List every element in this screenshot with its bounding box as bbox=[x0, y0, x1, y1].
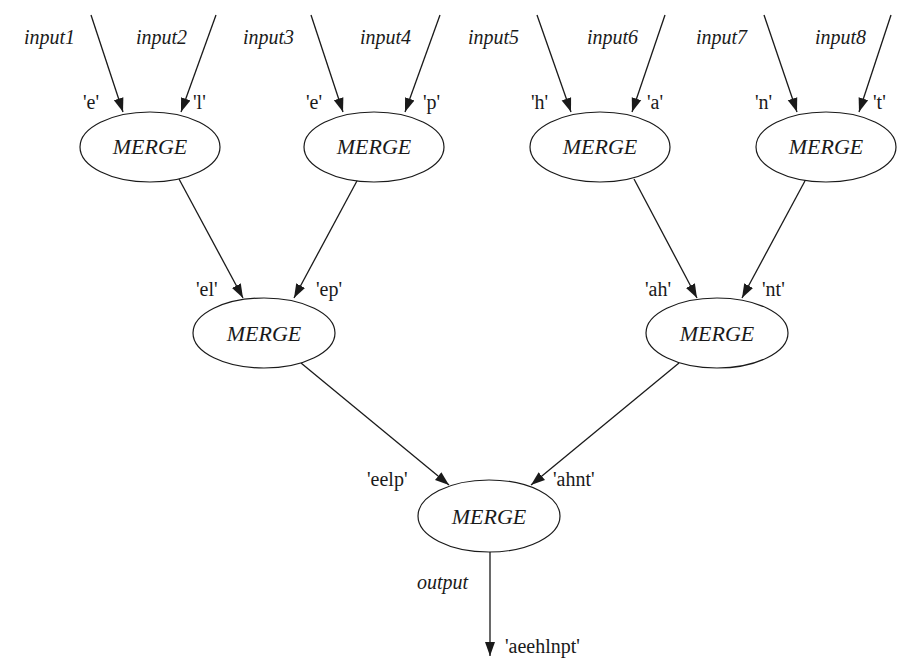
level1-output-3: 'ah' bbox=[645, 278, 671, 300]
input-value-1: 'e' bbox=[83, 91, 99, 113]
root-node: MERGE bbox=[418, 480, 560, 552]
input-value-5: 'h' bbox=[531, 91, 548, 113]
node-label: MERGE bbox=[562, 134, 638, 159]
level2-edges bbox=[301, 363, 679, 485]
level2-output-1: 'eelp' bbox=[367, 468, 408, 491]
output-value-label: 'aeehlnpt' bbox=[505, 635, 580, 658]
level1-edges bbox=[179, 179, 806, 298]
input-values: 'e' 'l' 'e' 'p' 'h' 'a' 'n' 't' bbox=[83, 91, 886, 114]
input-value-4: 'p' bbox=[423, 91, 440, 114]
level2-output-2: 'ahnt' bbox=[553, 468, 595, 490]
edge-l2b-to-root bbox=[531, 363, 679, 485]
level2-node-1: MERGE bbox=[193, 298, 335, 368]
input-value-6: 'a' bbox=[647, 91, 663, 113]
node-label: MERGE bbox=[112, 134, 188, 159]
node-label: MERGE bbox=[336, 134, 412, 159]
node-label: MERGE bbox=[788, 134, 864, 159]
input-value-3: 'e' bbox=[306, 91, 322, 113]
input-labels: input1 input2 input3 input4 input5 input… bbox=[24, 26, 866, 49]
input-label-1: input1 bbox=[24, 26, 75, 49]
input-label-7: input7 bbox=[696, 26, 748, 49]
level1-node-4: MERGE bbox=[756, 112, 896, 182]
level1-node-1: MERGE bbox=[80, 112, 220, 182]
node-label: MERGE bbox=[679, 321, 755, 346]
level1-node-2: MERGE bbox=[304, 112, 444, 182]
level2-node-2: MERGE bbox=[646, 298, 788, 368]
input-label-8: input8 bbox=[815, 26, 866, 49]
input-value-2: 'l' bbox=[193, 91, 206, 113]
input-label-5: input5 bbox=[468, 26, 519, 49]
input-value-7: 'n' bbox=[755, 91, 772, 113]
merge-tree-diagram: input1 input2 input3 input4 input5 input… bbox=[0, 0, 913, 671]
level1-output-1: 'el' bbox=[196, 278, 218, 300]
level1-output-2: 'ep' bbox=[316, 278, 342, 301]
input-label-3: input3 bbox=[243, 26, 294, 49]
node-label: MERGE bbox=[451, 504, 527, 529]
node-label: MERGE bbox=[226, 321, 302, 346]
input-label-2: input2 bbox=[136, 26, 187, 49]
level1-node-3: MERGE bbox=[530, 112, 670, 182]
input-label-6: input6 bbox=[587, 26, 638, 49]
input-label-4: input4 bbox=[360, 26, 411, 49]
level1-output-4: 'nt' bbox=[762, 278, 785, 300]
input-value-8: 't' bbox=[873, 91, 886, 113]
edge-l2a-to-root bbox=[301, 363, 449, 485]
output-name-label: output bbox=[417, 571, 469, 594]
